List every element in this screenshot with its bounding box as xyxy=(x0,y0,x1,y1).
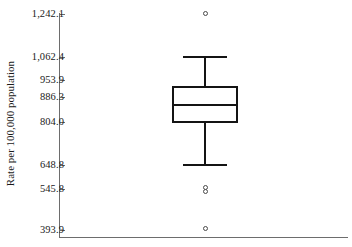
median-line xyxy=(172,104,238,106)
upper-whisker-stem xyxy=(204,57,206,87)
lower-whisker-cap xyxy=(183,164,227,166)
outlier-point xyxy=(203,189,208,194)
lower-whisker-stem xyxy=(204,122,206,166)
boxplot-chart: Rate per 100,000 population 1,242.1 1,06… xyxy=(0,0,352,247)
boxplot-series xyxy=(0,0,352,247)
outlier-point xyxy=(203,226,208,231)
outlier-point xyxy=(203,11,208,16)
